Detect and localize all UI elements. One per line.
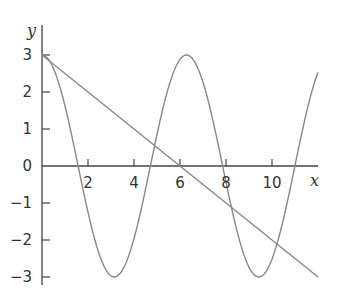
y-tick-label: 2 xyxy=(22,83,32,101)
y-tick-label: 3 xyxy=(22,46,32,64)
y-tick-label: 1 xyxy=(22,120,32,138)
y-tick-label: −1 xyxy=(10,194,32,212)
y-tick-label: −3 xyxy=(10,268,32,286)
chart: 3210−1−2−3246810yx xyxy=(0,0,337,308)
x-tick-label: 2 xyxy=(83,174,93,192)
x-tick-label: 10 xyxy=(262,174,281,192)
y-tick-label: 0 xyxy=(22,157,32,175)
x-tick-label: 4 xyxy=(129,174,139,192)
y-axis-label: y xyxy=(26,21,37,40)
x-axis-label: x xyxy=(310,171,319,190)
y-tick-label: −2 xyxy=(10,231,32,249)
x-tick-label: 8 xyxy=(221,174,231,192)
x-tick-label: 6 xyxy=(175,174,185,192)
